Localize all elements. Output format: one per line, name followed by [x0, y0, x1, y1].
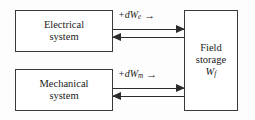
- mechanical-system-label-line1: Mechanical: [40, 78, 89, 90]
- field-storage-energy-symbol-base: W: [206, 66, 215, 77]
- electrical-energy-subscript: e: [138, 13, 141, 21]
- field-storage-box: Field storage Wf: [184, 10, 238, 111]
- arrow-right-icon: →: [144, 10, 155, 21]
- mechanical-forward-arrowhead-icon: [176, 84, 185, 92]
- mechanical-backward-arrowhead-icon: [112, 92, 121, 100]
- electrical-system-box: Electrical system: [15, 10, 113, 52]
- electrical-energy-differential: dW: [125, 9, 138, 20]
- mechanical-energy-expression: +dWm: [118, 68, 143, 80]
- electrical-backward-arrow-shaft: [113, 37, 184, 38]
- energy-flow-diagram: Electrical system Mechanical system Fiel…: [0, 0, 255, 120]
- mechanical-energy-subscript: m: [138, 72, 143, 80]
- field-storage-label-line1: Field: [200, 42, 222, 54]
- mechanical-system-box: Mechanical system: [15, 69, 113, 111]
- mechanical-backward-arrow-shaft: [113, 96, 184, 97]
- mechanical-energy-differential: dW: [125, 68, 138, 79]
- field-storage-energy-symbol-subscript: f: [214, 69, 216, 78]
- mechanical-energy-label: +dWm →: [118, 68, 157, 80]
- mechanical-energy-connector: +dWm →: [113, 69, 184, 103]
- mechanical-energy-sign: +: [118, 68, 125, 79]
- electrical-energy-sign: +: [118, 9, 125, 20]
- electrical-energy-label: +dWe →: [118, 9, 155, 21]
- electrical-forward-arrow-shaft: [113, 29, 184, 30]
- mechanical-forward-arrow-shaft: [113, 88, 184, 89]
- electrical-forward-arrowhead-icon: [176, 25, 185, 33]
- electrical-system-label-line2: system: [49, 31, 78, 43]
- electrical-energy-expression: +dWe: [118, 9, 141, 21]
- field-storage-label-line2: storage: [196, 54, 226, 66]
- mechanical-system-label-line2: system: [49, 90, 78, 102]
- arrow-right-icon: →: [146, 69, 157, 80]
- electrical-energy-connector: +dWe →: [113, 10, 184, 44]
- electrical-backward-arrowhead-icon: [112, 33, 121, 41]
- field-storage-energy-symbol: Wf: [206, 66, 217, 79]
- electrical-system-label-line1: Electrical: [44, 19, 84, 31]
